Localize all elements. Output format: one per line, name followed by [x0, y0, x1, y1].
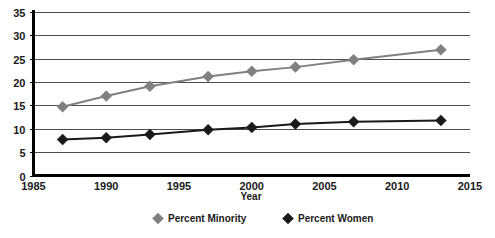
data-point-marker [290, 119, 301, 130]
legend-marker [153, 213, 164, 224]
data-point-marker [101, 91, 112, 102]
x-tick-label: 1990 [94, 180, 118, 192]
data-point-marker [246, 122, 257, 133]
chart-legend: Percent MinorityPercent Women [153, 213, 374, 224]
data-point-marker [57, 134, 68, 145]
data-point-marker [101, 132, 112, 143]
data-point-marker [348, 54, 359, 65]
data-point-marker [203, 71, 214, 82]
data-point-marker [290, 62, 301, 73]
series-percent-minority [57, 44, 446, 112]
legend-label: Percent Minority [168, 213, 247, 224]
data-point-marker [246, 66, 257, 77]
y-tick-label: 10 [13, 124, 25, 136]
x-tick-label: 1985 [21, 180, 45, 192]
legend-label: Percent Women [298, 213, 373, 224]
x-tick-label: 2005 [312, 180, 336, 192]
y-tick-labels-group: 05101520253035 [13, 7, 25, 183]
data-point-marker [203, 124, 214, 135]
y-tick-label: 15 [13, 100, 25, 112]
x-tick-label: 2010 [385, 180, 409, 192]
legend-marker [283, 213, 294, 224]
series-line [63, 50, 441, 107]
chart-canvas: 05101520253035 1985199019952000200520102… [0, 0, 495, 238]
data-point-marker [435, 115, 446, 126]
data-point-marker [57, 101, 68, 112]
x-tick-label: 1995 [167, 180, 191, 192]
data-point-marker [435, 44, 446, 55]
y-tick-label: 30 [13, 30, 25, 42]
x-tick-label: 2015 [458, 180, 482, 192]
data-point-marker [348, 116, 359, 127]
data-point-marker [144, 129, 155, 140]
y-tick-label: 20 [13, 77, 25, 89]
y-tick-label: 5 [19, 147, 25, 159]
line-chart: 05101520253035 1985199019952000200520102… [0, 0, 495, 238]
x-axis-title: Year [240, 191, 261, 202]
y-tick-label: 35 [13, 7, 25, 19]
y-tick-label: 25 [13, 54, 25, 66]
